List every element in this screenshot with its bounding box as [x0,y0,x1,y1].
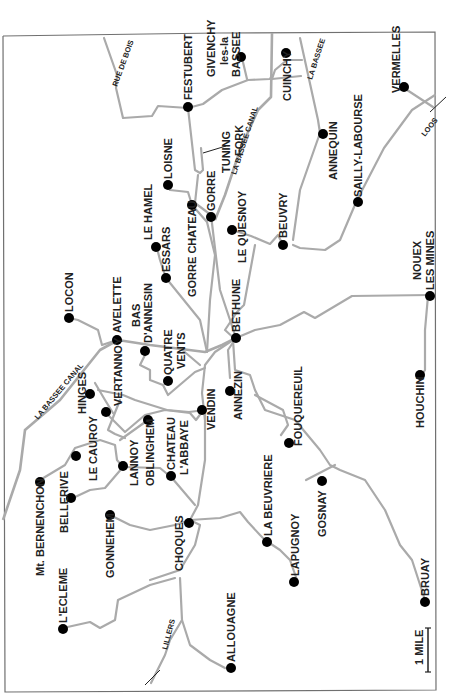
town-dot-essars[interactable] [161,273,171,283]
label-fouquereuil: FOUQUEREUIL [292,366,304,446]
label-loos: LOOS [419,116,439,138]
label-essars: ESSARS [160,227,172,272]
label-quatre-vents-1: QUATRE [162,329,174,375]
town-dot-lannoy[interactable] [118,461,128,471]
label-bellerive: BELLERIVE [58,471,70,533]
scale-label: 1 MILE [413,630,425,665]
label-sailly: SAILLY-LABOURSE [352,94,364,197]
town-dot-sailly[interactable] [353,197,363,207]
label-bas-annesin-1: BAS [130,304,142,327]
town-dot-vertannoy[interactable] [101,407,111,417]
town-dot-noeux[interactable] [425,291,435,301]
label-lecleme: L'ECLEME [57,568,69,623]
label-gonnehem: GONNEHEM [104,513,116,578]
town-dot-bas-annesin[interactable] [140,346,150,356]
town-dot-quatre-vents[interactable] [163,376,173,386]
label-vertannoy: VERTANNOY [112,337,124,406]
label-beuvry: BEUVRY [277,192,289,238]
label-bernenchon: Mt. BERNENCHON [34,478,46,576]
town-dot-bethune[interactable] [231,333,241,343]
label-la-beuvriere: LA BEUVRIERE [262,455,274,537]
label-rue-de-bois: RUE DE BOIS [110,39,135,88]
label-bethune: BETHUNE [230,279,242,332]
town-dot-lecleme[interactable] [58,624,68,634]
label-lannoy: LANNOY [128,439,140,486]
label-festubert: FESTUBERT [182,34,194,100]
lillers-arrow-icon [145,670,160,685]
town-dot-beuvry[interactable] [278,240,288,250]
label-annequin: ANNEQUIN [327,121,339,180]
label-bruay: BRUAY [419,557,431,596]
label-gosnay: GOSNAY [316,490,328,537]
label-houchin: HOUCHIN [414,377,426,428]
label-noeux-1: NOUEX [411,240,423,280]
label-bas-annesin-2: D'ANNESIN [142,283,154,343]
town-dot-gorre[interactable] [206,212,216,222]
town-dot-chateau-abbaye[interactable] [166,471,176,481]
label-le-quesnoy: LE QUESNOY [236,190,248,263]
scale-bar: 1 MILE [413,628,431,672]
town-dot-choques[interactable] [184,518,194,528]
label-allouagne: ALLOUAGNE [225,592,237,662]
town-dot-la-beuvriere[interactable] [262,537,272,547]
town-dot-locon[interactable] [64,313,74,323]
town-dot-lapugnoy[interactable] [289,577,299,587]
map-canvas: RUE DE BOIS LA BASSEE CANAL LA BASSEE LO… [0,0,461,695]
loos-arrow-icon [430,97,446,112]
town-dot-allouagne[interactable] [226,663,236,673]
label-fork: FORK [233,125,245,156]
label-loisne: LOISNE [162,138,174,179]
label-vermelles: VERMELLES [390,26,402,93]
label-quatre-vents-2: VENTS [175,332,187,369]
label-givenchy: GIVENCHY [205,19,217,77]
label-choques: CHOQUES [173,515,185,571]
label-le-cauroy: LE CAUROY [87,416,99,481]
town-dot-gosnay[interactable] [317,476,327,486]
label-hinges: HINGES [76,372,88,414]
label-gorre: GORRE [205,171,217,211]
label-vendin: VENDIN [205,388,217,430]
town-dot-loisne[interactable] [163,180,173,190]
label-le-hamel: LE HAMEL [142,184,154,241]
label-givenchy-2: les-la [218,36,230,65]
town-dot-le-cauroy[interactable] [71,451,81,461]
label-chateau-abbaye-1: CHATEAU [165,417,177,470]
label-cuinchy: CUINCHY [281,50,293,101]
town-dot-festubert[interactable] [183,102,193,112]
label-noeux-2: LES MINES [424,231,436,290]
label-givenchy-3: BASSEE [230,32,242,77]
label-gorre-chateau: GORRE CHATEAU [186,201,198,297]
label-la-bassee-road: LA BASSEE [305,37,327,80]
label-oblinghem: OBLINGHEM [144,419,156,486]
label-avelette: AVELETTE [111,276,123,333]
label-locon: LOCON [63,272,75,312]
town-dot-bruay[interactable] [420,597,430,607]
label-chateau-abbaye-2: L'ABBAYE [178,420,190,475]
label-lapugnoy: LAPUGNOY [289,513,301,576]
label-tuning: TUNING [220,131,232,173]
label-annezin: ANNEZIN [232,371,244,420]
